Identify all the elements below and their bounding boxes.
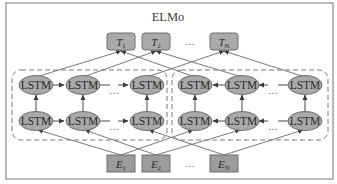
- svg-text:LSTM: LSTM: [132, 79, 163, 91]
- elmo-diagram: ELMo: [0, 0, 337, 184]
- ellipsis: …: [268, 85, 278, 96]
- input-node-e1: E1: [107, 155, 135, 172]
- svg-text:LSTM: LSTM: [180, 115, 211, 127]
- svg-text:LSTM: LSTM: [132, 115, 163, 127]
- ellipsis: …: [268, 121, 278, 132]
- lstm-node: LSTM: [288, 76, 322, 95]
- lstm-node: LSTM: [225, 112, 259, 131]
- ellipsis: …: [185, 36, 195, 47]
- input-node-e2: E2: [142, 155, 170, 172]
- output-node-tn: TN: [210, 33, 238, 50]
- lstm-node: LSTM: [19, 76, 53, 95]
- svg-text:LSTM: LSTM: [290, 115, 321, 127]
- ellipsis: …: [185, 158, 195, 169]
- lstm-node: LSTM: [225, 76, 259, 95]
- svg-text:LSTM: LSTM: [68, 79, 99, 91]
- svg-text:LSTM: LSTM: [68, 115, 99, 127]
- lstm-node: LSTM: [66, 76, 100, 95]
- outer-frame: [6, 3, 333, 179]
- output-node-t1: T1: [107, 33, 135, 50]
- lstm-node: LSTM: [288, 112, 322, 131]
- lstm-node: LSTM: [130, 112, 164, 131]
- ellipsis: …: [109, 85, 119, 96]
- lstm-node: LSTM: [178, 112, 212, 131]
- lstm-node: LSTM: [130, 76, 164, 95]
- diagram-title: ELMo: [152, 10, 185, 24]
- lstm-node: LSTM: [66, 112, 100, 131]
- svg-text:LSTM: LSTM: [227, 115, 258, 127]
- svg-text:LSTM: LSTM: [21, 79, 52, 91]
- svg-text:LSTM: LSTM: [180, 79, 211, 91]
- input-node-en: EN: [210, 155, 238, 172]
- lstm-node: LSTM: [19, 112, 53, 131]
- lstm-node: LSTM: [178, 76, 212, 95]
- svg-text:LSTM: LSTM: [290, 79, 321, 91]
- svg-text:LSTM: LSTM: [227, 79, 258, 91]
- output-node-t2: T2: [142, 33, 170, 50]
- svg-text:LSTM: LSTM: [21, 115, 52, 127]
- ellipsis: …: [109, 121, 119, 132]
